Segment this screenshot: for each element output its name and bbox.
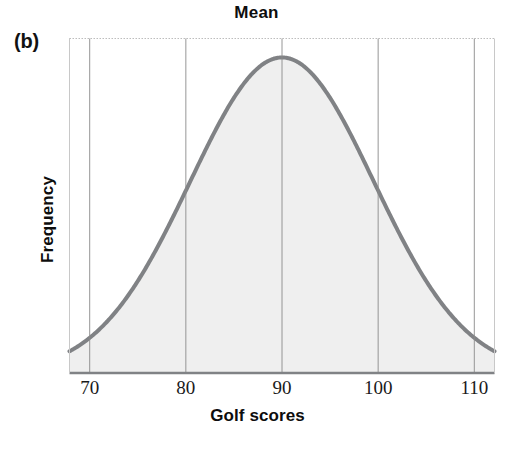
x-tick-label-100: 100 — [343, 378, 413, 399]
x-tick-label-90: 90 — [247, 378, 317, 399]
figure-container: (b) Mean Frequency Golf scores 708090100… — [0, 0, 517, 450]
x-tick-label-110: 110 — [439, 378, 509, 399]
x-tick-label-80: 80 — [151, 378, 221, 399]
x-tick-label-70: 70 — [55, 378, 125, 399]
